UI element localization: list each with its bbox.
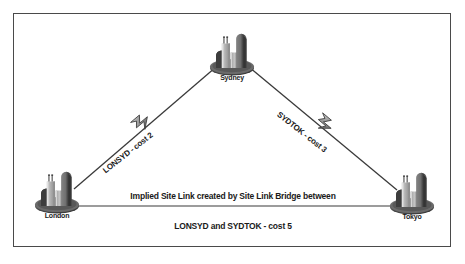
node-london[interactable] (35, 172, 79, 214)
diagram-figure: Sydney London Tokyo LONSYD - cost 2 SYDT… (0, 0, 465, 264)
node-label-london: London (45, 212, 69, 219)
node-label-tokyo: Tokyo (402, 213, 421, 220)
implied-link-label-line2: LONSYD and SYDTOK - cost 5 (174, 221, 291, 231)
link-lines (74, 67, 397, 206)
implied-link-label-line1: Implied Site Link created by Site Link B… (130, 191, 335, 201)
node-label-sydney: Sydney (220, 74, 244, 81)
node-tokyo[interactable] (390, 173, 434, 215)
node-sydney[interactable] (210, 34, 254, 76)
